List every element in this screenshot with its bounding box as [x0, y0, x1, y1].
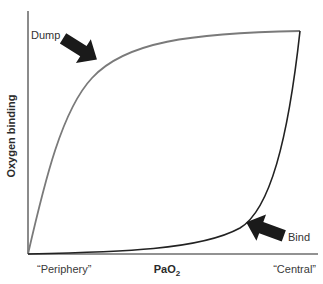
- x-axis-label-main: PaO: [154, 263, 176, 275]
- y-axis-label: Oxygen binding: [5, 94, 17, 177]
- oxygen-binding-chart: [0, 0, 323, 284]
- x-axis-label-subscript: 2: [176, 269, 180, 278]
- x-tick-label-periphery: “Periphery”: [37, 263, 91, 275]
- dump-arrow-icon: [56, 27, 105, 72]
- x-tick-label-central: “Central”: [273, 263, 316, 275]
- bind-arrow-icon: [241, 209, 288, 249]
- bind-annotation: Bind: [288, 231, 310, 243]
- x-axis-label: PaO2: [154, 263, 180, 278]
- dump-annotation: Dump: [31, 29, 60, 41]
